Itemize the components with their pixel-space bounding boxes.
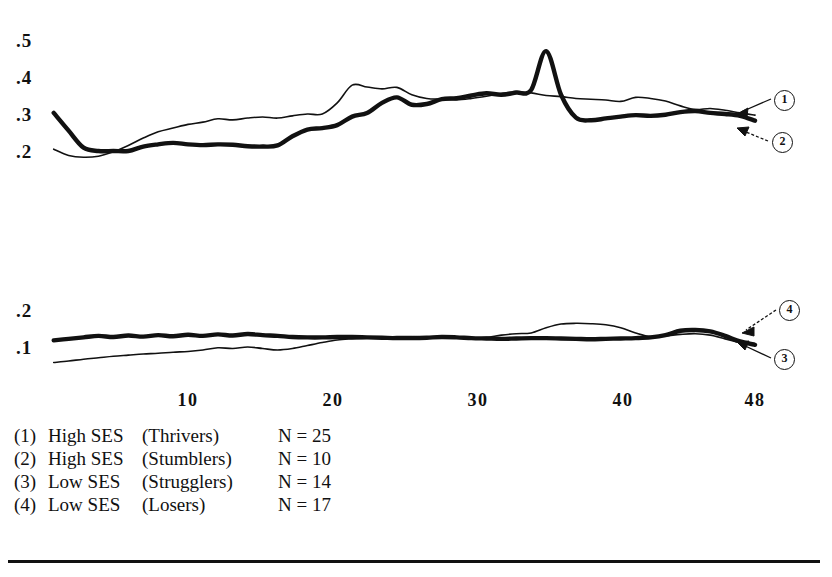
xtick-40: 40 <box>613 391 634 409</box>
callout-1: 1 <box>774 90 795 111</box>
legend-group: (Losers) <box>142 493 278 516</box>
legend-row: (3) Low SES (Strugglers) N = 14 <box>14 470 414 493</box>
ytick-upper-2: .3 <box>16 105 32 124</box>
callout-4: 4 <box>779 300 800 321</box>
legend-row: (4) Low SES (Losers) N = 17 <box>14 493 414 516</box>
ytick-upper-0: .5 <box>16 31 32 50</box>
legend-n: N = 10 <box>278 447 378 470</box>
legend-number: (3) <box>14 470 48 493</box>
legend-group: (Strugglers) <box>142 470 278 493</box>
ytick-upper-1: .4 <box>16 68 32 87</box>
legend-number: (4) <box>14 493 48 516</box>
series-stumblers-upper <box>54 51 755 151</box>
ytick-lower-0: .2 <box>16 301 32 320</box>
legend: (1) High SES (Thrivers) N = 25 (2) High … <box>14 424 414 516</box>
legend-group: (Thrivers) <box>142 424 278 447</box>
legend-ses: High SES <box>48 447 142 470</box>
legend-number: (2) <box>14 447 48 470</box>
ytick-lower-1: .1 <box>16 338 32 357</box>
legend-n: N = 25 <box>278 424 378 447</box>
legend-row: (1) High SES (Thrivers) N = 25 <box>14 424 414 447</box>
legend-ses: Low SES <box>48 493 142 516</box>
xtick-48: 48 <box>745 391 766 409</box>
legend-n: N = 17 <box>278 493 378 516</box>
xtick-30: 30 <box>468 391 489 409</box>
callout-arrows <box>737 99 776 358</box>
xtick-10: 10 <box>178 391 199 409</box>
figure-root: .5 .4 .3 .2 .2 .1 10 20 30 40 48 1 2 4 3… <box>0 0 832 577</box>
xtick-20: 20 <box>323 391 344 409</box>
callout-3: 3 <box>774 349 795 370</box>
legend-n: N = 14 <box>278 470 378 493</box>
legend-row: (2) High SES (Stumblers) N = 10 <box>14 447 414 470</box>
ytick-upper-3: .2 <box>16 142 32 161</box>
callout-2: 2 <box>772 132 793 153</box>
legend-number: (1) <box>14 424 48 447</box>
series-losers-lower <box>54 330 755 345</box>
legend-ses: High SES <box>48 424 142 447</box>
bottom-rule <box>8 560 820 563</box>
legend-ses: Low SES <box>48 470 142 493</box>
legend-group: (Stumblers) <box>142 447 278 470</box>
series-strugglers-lower <box>54 323 755 362</box>
